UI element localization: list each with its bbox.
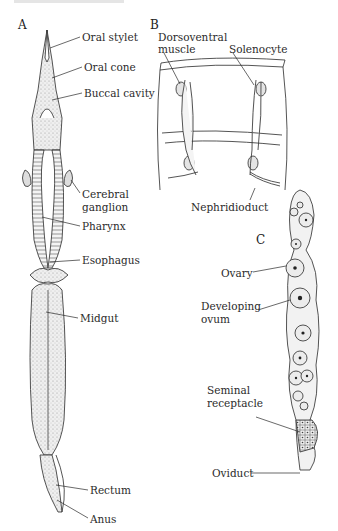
label-dorsoventral-muscle-line1: Dorsoventral	[158, 31, 227, 43]
label-midgut: Midgut	[80, 312, 119, 324]
diagram-drawings	[0, 0, 338, 531]
label-developing-ovum-line2: ovum	[201, 313, 230, 325]
label-solenocyte: Solenocyte	[229, 43, 287, 55]
label-nephridioduct: Nephridioduct	[191, 201, 268, 213]
label-dorsoventral-muscle-line2: muscle	[158, 43, 196, 55]
label-anus: Anus	[90, 513, 117, 525]
label-seminal-receptacle-line2: receptacle	[207, 397, 263, 409]
label-developing-ovum-line1: Developing	[201, 300, 261, 312]
label-seminal-receptacle-line1: Seminal	[207, 384, 250, 396]
label-oral-stylet: Oral stylet	[82, 31, 138, 43]
label-rectum: Rectum	[90, 484, 131, 496]
label-buccal-cavity: Buccal cavity	[84, 87, 155, 99]
panel-b-leaders	[164, 53, 255, 200]
label-cerebral-ganglion-line2: ganglion	[82, 201, 128, 213]
label-cerebral-ganglion-line1: Cerebral	[82, 188, 129, 200]
label-pharynx: Pharynx	[82, 220, 126, 232]
panel-c-drawing	[286, 190, 319, 470]
label-ovary: Ovary	[221, 267, 253, 279]
panel-a-drawing	[23, 30, 73, 512]
label-oviduct: Oviduct	[212, 467, 253, 479]
label-oral-cone: Oral cone	[84, 61, 136, 73]
label-esophagus: Esophagus	[82, 254, 140, 266]
